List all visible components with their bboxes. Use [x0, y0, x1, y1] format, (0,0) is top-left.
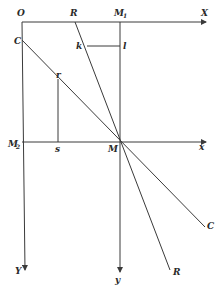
label-x-small: x [198, 142, 205, 152]
line-cc [22, 40, 205, 227]
label-x-axis: X [200, 8, 209, 18]
label-k: k [76, 41, 82, 51]
geometry-diagram: O R M 1 X C k l r M 2 s M x C Y y R [0, 0, 222, 294]
label-m: M [107, 144, 119, 154]
label-y-small: y [114, 275, 121, 285]
label-l: l [123, 41, 127, 51]
label-m2-sub: 2 [15, 143, 20, 150]
label-c-bottom: C [207, 221, 215, 231]
label-s: s [55, 144, 60, 154]
label-r: r [56, 70, 62, 80]
axis-y-left [22, 22, 25, 270]
label-r-bottom: R [172, 267, 181, 277]
label-o: O [17, 8, 25, 18]
label-y-axis: Y [15, 266, 23, 276]
label-r-top: R [69, 8, 78, 18]
label-c-top: C [14, 36, 22, 46]
label-m1-sub: 1 [123, 12, 127, 19]
line-rr [75, 22, 170, 270]
